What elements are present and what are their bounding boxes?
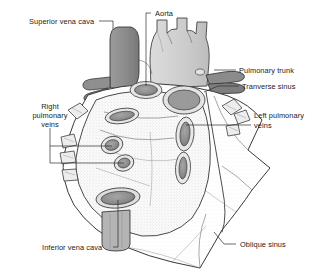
label-superior-vena-cava: Superior vena cava [29,17,95,26]
leader-aorta-hook [146,13,151,18]
heart-posterior-diagram: Superior vena cava Aorta Pulmonary trunk… [0,0,318,273]
label-left-pulmonary-veins-line1: Left pulmonary [254,111,304,120]
label-right-pulmonary-veins-line3: veins [41,120,59,129]
label-transverse-sinus: Tranverse sinus [242,82,296,91]
left-pulmonary-vein-stub-3 [226,124,240,136]
label-inferior-vena-cava: Inferior vena cava [42,243,103,252]
label-right-pulmonary-veins-line1: Right [41,102,59,111]
inferior-vena-cava-stub [102,210,130,251]
label-pulmonary-trunk: Pulmonary trunk [239,66,294,75]
right-pulmonary-vein-stub-3 [60,151,76,164]
leader-superior-vena-cava [99,21,113,30]
label-aorta: Aorta [155,9,174,18]
aorta-structure [150,18,209,88]
right-pulmonary-vein-stub-4 [62,169,78,181]
pulmonary-trunk-opening [163,86,205,114]
label-left-pulmonary-veins-line2: veins [254,121,272,130]
ligamentum-arteriosum [196,69,205,75]
label-oblique-sinus: Oblique sinus [240,240,286,249]
anatomical-figure: Superior vena cava Aorta Pulmonary trunk… [0,0,318,273]
label-right-pulmonary-veins-line2: pulmonary [32,111,67,120]
